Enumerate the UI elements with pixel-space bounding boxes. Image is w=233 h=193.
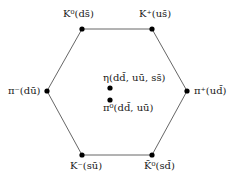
label-piminus: π⁻(dū) (8, 85, 41, 97)
hexagon-outline (47, 29, 187, 155)
node-Kplus (149, 26, 154, 31)
node-eta (107, 85, 112, 90)
label-K0bar: K̄⁰(sd̄) (144, 160, 175, 172)
node-K0 (79, 26, 84, 31)
node-piminus (44, 88, 49, 93)
label-K0: K⁰(ds̄) (63, 8, 94, 20)
label-eta: η(dd̄, uū, ss̄) (103, 72, 165, 84)
node-K0bar (149, 152, 154, 157)
node-piplus (184, 88, 189, 93)
label-Kminus: K⁻(sū) (70, 160, 102, 172)
label-piplus: π⁺(ud̄) (194, 85, 227, 97)
node-Kminus (79, 152, 84, 157)
label-pi0: π⁰(dd̄, uū) (103, 102, 153, 114)
label-Kplus: K⁺(us̄) (139, 8, 171, 20)
